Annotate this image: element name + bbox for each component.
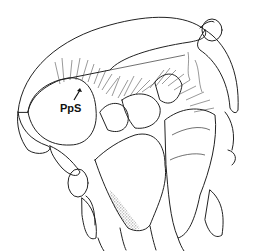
- illustration-canvas: PpS: [0, 0, 256, 251]
- lower-legs: [98, 226, 184, 251]
- pointer-arrow-icon: [74, 90, 80, 100]
- dorsal-shell: [18, 17, 238, 112]
- setose-lobes: [100, 74, 182, 132]
- lower-left-appendages: [50, 146, 96, 239]
- anatomical-illustration: PpS: [0, 0, 256, 251]
- arrowhead-icon: [77, 88, 82, 92]
- right-plates: [165, 109, 235, 238]
- label-pps: PpS: [60, 88, 82, 114]
- left-lobe: [17, 78, 96, 154]
- pps-label: PpS: [60, 102, 81, 114]
- central-sclerite: [95, 134, 166, 231]
